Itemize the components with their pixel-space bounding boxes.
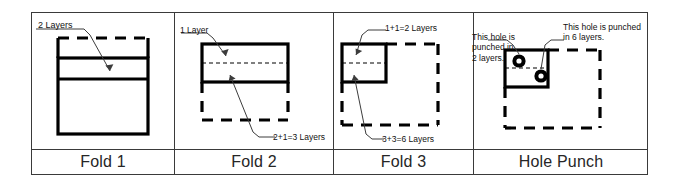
- diagram-fold-2: 1 Layer 2+1=3 Layers: [175, 13, 333, 149]
- fold-3-leader-bottom: [351, 75, 384, 139]
- fold-1-drawing: [32, 13, 174, 149]
- punched-hole-right-icon: [534, 69, 547, 82]
- annotation-fold-2-layers-top: 1 Layer: [180, 25, 208, 35]
- annotation-fold-3-layers-bottom: 3+3=6 Layers: [382, 134, 434, 144]
- caption-fold-3: Fold 3: [334, 150, 473, 174]
- fold-1-leader-line: [36, 29, 113, 71]
- diagram-hole-punch: This hole is punched in 2 layers. This h…: [474, 13, 648, 149]
- caption-fold-2: Fold 2: [175, 150, 333, 174]
- hole-punch-leader-right: [541, 40, 564, 69]
- diagram-fold-3: 1+1=2 Layers 3+3=6 Layers: [334, 13, 473, 149]
- fold-3-drawing: [334, 13, 473, 149]
- diagram-fold-1: 2 Layers: [32, 13, 174, 149]
- annotation-fold-2-layers-bottom: 2+1=3 Layers: [273, 132, 325, 142]
- caption-fold-1: Fold 1: [32, 150, 174, 174]
- caption-hole-punch: Hole Punch: [474, 150, 648, 174]
- annotation-fold-3-layers-top: 1+1=2 Layers: [385, 23, 437, 33]
- annotation-hole-left: This hole is punched in 2 layers.: [472, 32, 515, 63]
- annotation-hole-right: This hole is punched in 6 layers.: [563, 22, 641, 43]
- fold-2-dashed-outline: [202, 82, 288, 120]
- fold-1-solid-outline: [58, 58, 148, 134]
- folding-diagram-figure: 2 Layers: [0, 0, 679, 182]
- fold-1-dashed-outline: [58, 38, 148, 58]
- annotation-fold-1-layers-top: 2 Layers: [38, 20, 73, 31]
- fold-2-leader-bottom: [229, 75, 275, 137]
